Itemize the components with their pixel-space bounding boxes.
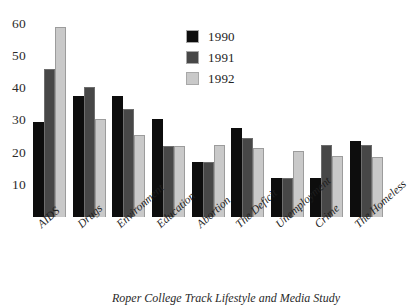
y-axis-tick: 40 — [12, 80, 26, 96]
legend-swatch-icon — [186, 51, 199, 64]
legend-item: 1992 — [186, 68, 235, 89]
legend-item: 1991 — [186, 47, 235, 68]
bar-group — [33, 14, 66, 217]
y-axis-tick: 20 — [12, 145, 26, 161]
bar-group — [73, 14, 106, 217]
bar-group — [231, 14, 264, 217]
chart-caption: Roper College Track Lifestyle and Media … — [112, 291, 411, 305]
legend-label: 1992 — [208, 71, 235, 87]
y-axis: 102030405060 — [0, 0, 30, 305]
legend-label: 1991 — [208, 50, 235, 66]
y-axis-tick: 50 — [12, 48, 26, 64]
legend-item: 1990 — [186, 26, 235, 47]
bar-group — [112, 14, 145, 217]
bar — [152, 119, 163, 217]
bar — [44, 69, 55, 217]
y-axis-tick: 10 — [12, 177, 26, 193]
bar — [123, 109, 134, 217]
bar — [231, 128, 242, 217]
bar-group — [271, 14, 304, 217]
bar-group — [350, 14, 383, 217]
bar — [33, 122, 44, 217]
bar — [192, 162, 203, 217]
bar — [112, 96, 123, 217]
bar — [55, 27, 66, 217]
chart-legend: 199019911992 — [186, 26, 235, 89]
legend-swatch-icon — [186, 30, 199, 43]
bar — [350, 141, 361, 217]
legend-label: 1990 — [208, 29, 235, 45]
bar — [84, 87, 95, 218]
y-axis-tick: 30 — [12, 112, 26, 128]
y-axis-tick: 60 — [12, 16, 26, 32]
legend-swatch-icon — [186, 72, 199, 85]
bar — [73, 96, 84, 217]
